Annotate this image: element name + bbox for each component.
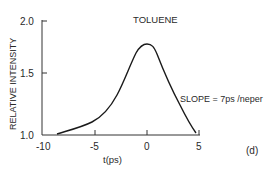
x-tick-label: -5 [90, 141, 99, 152]
data-line-toluene [57, 44, 196, 134]
y-tick-label: 2.0 [20, 16, 34, 27]
x-axis-label: t(ps) [103, 154, 122, 165]
chart: 2.0 1.5 1.0 -10 -5 0 5 t(ps) RELATIVE IN… [0, 0, 270, 171]
y-tick-label: 1.0 [20, 130, 34, 141]
x-tick-label: -10 [36, 141, 51, 152]
x-tick-label: 0 [144, 141, 150, 152]
panel-label: (d) [246, 145, 258, 156]
y-axis-label: RELATIVE INTENSITY [8, 38, 18, 130]
slope-annotation: SLOPE = 7ps /neper [180, 94, 263, 104]
x-tick-label: 5 [196, 141, 202, 152]
chart-title: TOLUENE [133, 14, 178, 25]
y-tick-label: 1.5 [20, 68, 34, 79]
